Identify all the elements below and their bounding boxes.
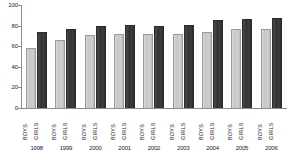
bar-girls-2000 bbox=[96, 26, 106, 108]
series-label-girls: GIRLS bbox=[184, 110, 194, 140]
series-label-text: GIRLS bbox=[33, 122, 39, 140]
series-label-text: GIRLS bbox=[121, 122, 127, 140]
series-label-text: GIRLS bbox=[238, 122, 244, 140]
y-axis-tick bbox=[18, 46, 22, 47]
y-axis-tick bbox=[18, 108, 22, 109]
x-axis-year-label: 2001 bbox=[110, 145, 139, 152]
y-axis-tick-label: 60 bbox=[2, 43, 18, 49]
x-axis-year-label: 2004 bbox=[198, 145, 227, 152]
bar-group bbox=[81, 5, 110, 108]
y-axis-tick-label: 100 bbox=[2, 2, 18, 8]
series-label-text: GIRLS bbox=[268, 122, 274, 140]
y-axis-tick bbox=[18, 26, 22, 27]
bar-boys-2003 bbox=[173, 34, 183, 108]
x-axis-group: BOYSGIRLS1999 bbox=[51, 110, 80, 153]
bar-boys-1998 bbox=[26, 48, 36, 108]
series-label-girls: GIRLS bbox=[125, 110, 135, 140]
x-axis-year-label: 1999 bbox=[51, 145, 80, 152]
series-label-text: BOYS bbox=[257, 124, 263, 140]
series-label-text: BOYS bbox=[22, 124, 28, 140]
series-label-girls: GIRLS bbox=[96, 110, 106, 140]
x-axis-group: BOYSGIRLS2000 bbox=[81, 110, 110, 153]
x-axis-year-label: 1998 bbox=[22, 145, 51, 152]
x-axis-year-label: 2003 bbox=[169, 145, 198, 152]
bar-boys-2002 bbox=[143, 34, 153, 108]
series-label-girls: GIRLS bbox=[272, 110, 282, 140]
series-label-girls: GIRLS bbox=[66, 110, 76, 140]
x-axis-labels: BOYSGIRLS1998BOYSGIRLS1999BOYSGIRLS2000B… bbox=[22, 110, 286, 153]
bar-chart: 100806040200 BOYSGIRLS1998BOYSGIRLS1999B… bbox=[0, 0, 289, 153]
x-axis-group: BOYSGIRLS2004 bbox=[198, 110, 227, 153]
series-label-text: BOYS bbox=[227, 124, 233, 140]
series-label-text: BOYS bbox=[81, 124, 87, 140]
bar-girls-1999 bbox=[66, 29, 76, 108]
bar-boys-1999 bbox=[55, 40, 65, 108]
bar-boys-2004 bbox=[202, 32, 212, 108]
series-label-text: BOYS bbox=[110, 124, 116, 140]
bar-girls-2006 bbox=[272, 18, 282, 108]
bar-girls-2001 bbox=[125, 25, 135, 108]
x-axis-year-label: 2000 bbox=[81, 145, 110, 152]
series-label-text: BOYS bbox=[139, 124, 145, 140]
x-axis-group: BOYSGIRLS2006 bbox=[257, 110, 286, 153]
x-axis-group: BOYSGIRLS2005 bbox=[227, 110, 256, 153]
y-axis-tick-label: 20 bbox=[2, 84, 18, 90]
bar-group bbox=[139, 5, 168, 108]
x-axis-group: BOYSGIRLS2001 bbox=[110, 110, 139, 153]
bar-boys-2001 bbox=[114, 34, 124, 108]
series-label-text: GIRLS bbox=[62, 122, 68, 140]
bar-group bbox=[22, 5, 51, 108]
y-axis-tick-label: 80 bbox=[2, 23, 18, 29]
series-label-text: GIRLS bbox=[209, 122, 215, 140]
bar-boys-2000 bbox=[85, 35, 95, 108]
y-axis-tick bbox=[18, 87, 22, 88]
series-label-girls: GIRLS bbox=[242, 110, 252, 140]
x-axis-year-label: 2005 bbox=[227, 145, 256, 152]
x-axis-year-label: 2002 bbox=[139, 145, 168, 152]
bar-boys-2005 bbox=[231, 29, 241, 108]
series-label-text: GIRLS bbox=[92, 122, 98, 140]
bar-group bbox=[51, 5, 80, 108]
x-axis-line bbox=[21, 108, 287, 109]
bar-girls-1998 bbox=[37, 32, 47, 108]
bar-group bbox=[257, 5, 286, 108]
bar-boys-2006 bbox=[261, 29, 271, 108]
bar-group bbox=[227, 5, 256, 108]
series-label-text: BOYS bbox=[51, 124, 57, 140]
y-axis-tick-label: 40 bbox=[2, 64, 18, 70]
bar-groups bbox=[22, 5, 286, 108]
y-axis-labels: 100806040200 bbox=[0, 0, 18, 113]
series-label-text: GIRLS bbox=[150, 122, 156, 140]
bar-girls-2005 bbox=[242, 19, 252, 108]
x-axis-year-label: 2006 bbox=[257, 145, 286, 152]
bar-girls-2002 bbox=[154, 26, 164, 108]
series-label-girls: GIRLS bbox=[154, 110, 164, 140]
series-label-text: BOYS bbox=[169, 124, 175, 140]
series-label-girls: GIRLS bbox=[37, 110, 47, 140]
y-axis-tick bbox=[18, 67, 22, 68]
bar-girls-2003 bbox=[184, 25, 194, 108]
bar-group bbox=[198, 5, 227, 108]
bar-group bbox=[169, 5, 198, 108]
x-axis-group: BOYSGIRLS1998 bbox=[22, 110, 51, 153]
x-axis-group: BOYSGIRLS2002 bbox=[139, 110, 168, 153]
series-label-text: BOYS bbox=[198, 124, 204, 140]
bar-girls-2004 bbox=[213, 20, 223, 108]
series-label-girls: GIRLS bbox=[213, 110, 223, 140]
series-label-text: GIRLS bbox=[180, 122, 186, 140]
bar-group bbox=[110, 5, 139, 108]
y-axis-tick-label: 0 bbox=[2, 105, 18, 111]
x-axis-group: BOYSGIRLS2003 bbox=[169, 110, 198, 153]
y-axis-tick bbox=[18, 5, 22, 6]
